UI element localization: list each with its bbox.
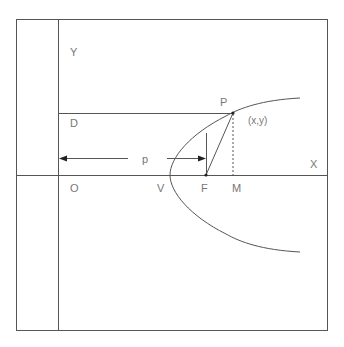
- label-d: D: [70, 117, 78, 129]
- label-vertex: V: [157, 182, 165, 194]
- focus-to-point-line: [206, 113, 233, 175]
- arrow-left-icon: [59, 156, 67, 162]
- label-x-axis: X: [310, 158, 318, 170]
- arrow-right-icon: [198, 156, 206, 162]
- label-point-coords: (x,y): [248, 115, 267, 126]
- label-p-distance: p: [142, 153, 148, 165]
- label-y-axis: Y: [70, 46, 78, 58]
- point-p: [231, 111, 234, 114]
- label-m: M: [232, 182, 241, 194]
- label-origin: O: [70, 182, 79, 194]
- label-focus: F: [201, 182, 208, 194]
- parabola-diagram: Y D p O V F M X P (x,y): [0, 0, 344, 347]
- focus-point: [204, 173, 207, 176]
- label-point-p: P: [220, 96, 227, 108]
